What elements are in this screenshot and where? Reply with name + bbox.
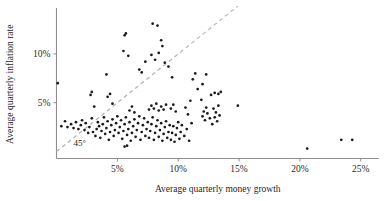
data-point [70, 123, 73, 126]
data-point [212, 107, 215, 110]
data-point [216, 120, 219, 123]
data-point [155, 125, 158, 128]
data-point [100, 130, 103, 133]
data-point [159, 129, 162, 132]
data-point [84, 122, 87, 125]
y-tick-label-0: 5% [38, 98, 51, 108]
data-point [157, 52, 160, 55]
data-point [351, 138, 354, 141]
data-point [166, 136, 169, 139]
data-point [165, 103, 168, 106]
data-point [95, 128, 98, 131]
data-point [201, 83, 204, 86]
data-point [98, 125, 101, 128]
x-axis-title: Average quarterly money growth [155, 184, 281, 194]
data-point [123, 123, 126, 126]
data-point [205, 73, 208, 76]
data-point [111, 102, 114, 105]
data-point [75, 121, 78, 124]
data-point [153, 107, 156, 110]
data-point [106, 120, 109, 123]
data-point [112, 135, 115, 138]
data-point [177, 121, 180, 124]
data-point [171, 132, 174, 135]
plot-canvas: 5%10% 5%10%15%20%25% 45° Average quarter… [0, 0, 389, 201]
data-point [174, 134, 177, 137]
data-point [189, 99, 192, 102]
data-point [163, 61, 166, 64]
data-point [122, 50, 125, 53]
data-point [64, 120, 67, 123]
data-point [89, 94, 92, 97]
forty-five-degree-label: 45° [74, 138, 87, 148]
x-tick-label-1: 10% [169, 164, 187, 174]
data-point [128, 121, 131, 124]
data-point [118, 126, 121, 129]
data-point [56, 82, 59, 85]
data-point [154, 132, 157, 135]
x-tick-label-4: 25% [352, 164, 370, 174]
data-point [142, 124, 145, 127]
data-point [151, 22, 154, 25]
data-point [181, 124, 184, 127]
data-point [133, 111, 136, 114]
data-point [120, 119, 123, 122]
data-point [213, 92, 216, 95]
data-point [219, 91, 222, 94]
data-point [194, 72, 197, 75]
data-point [145, 128, 148, 131]
data-point [107, 138, 110, 141]
data-point [97, 121, 100, 124]
data-point [218, 114, 221, 117]
data-point [202, 110, 205, 113]
data-point [340, 138, 343, 141]
data-point [148, 136, 151, 139]
data-point [143, 117, 146, 120]
data-point [104, 133, 107, 136]
data-point [188, 139, 191, 142]
data-point [87, 132, 90, 135]
data-point [208, 117, 211, 120]
data-point [211, 123, 214, 126]
data-point [140, 131, 143, 134]
y-axis-title: Average quarterly inflation rate [5, 25, 15, 144]
data-point [125, 116, 128, 119]
data-point [90, 117, 93, 120]
data-point [196, 88, 199, 91]
data-point [157, 136, 160, 139]
data-point [190, 122, 193, 125]
data-point [144, 60, 147, 63]
data-point [191, 78, 194, 81]
data-point [131, 132, 134, 135]
data-point [126, 144, 129, 147]
data-point [205, 106, 208, 109]
data-point [134, 136, 137, 139]
data-point [172, 103, 175, 106]
data-point [93, 105, 96, 108]
data-point [101, 123, 104, 126]
data-point [99, 136, 102, 139]
data-point [126, 134, 129, 137]
y-tick-label-1: 10% [33, 49, 51, 59]
data-point [105, 73, 108, 76]
x-tick-label-3: 20% [291, 164, 309, 174]
data-point [116, 115, 119, 118]
data-point [146, 121, 149, 124]
data-point [140, 71, 143, 74]
data-point [105, 127, 108, 130]
data-point [160, 39, 163, 42]
data-point [162, 108, 165, 111]
data-point [121, 137, 124, 140]
data-point [117, 132, 120, 135]
data-point [131, 105, 134, 108]
data-point [170, 138, 173, 141]
data-point [128, 109, 131, 112]
data-point [137, 122, 140, 125]
data-point [60, 125, 63, 128]
data-point [176, 127, 179, 130]
x-tick-label-0: 5% [111, 164, 124, 174]
data-point [81, 119, 84, 122]
data-point [139, 138, 142, 141]
data-point [109, 131, 112, 134]
data-point [236, 104, 239, 107]
